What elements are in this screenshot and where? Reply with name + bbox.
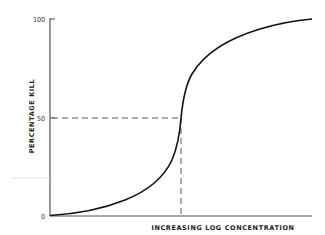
- sigmoid-curve: [50, 19, 312, 216]
- y-tick-label-50: 50: [37, 115, 45, 123]
- y-tick-label-0: 0: [41, 213, 45, 221]
- x-axis-title: INCREASING LOG CONCENTRATION: [151, 224, 294, 232]
- dose-response-chart: 100 50 0 INCREASING LOG CONCENTRATION PE…: [0, 0, 325, 235]
- y-tick-label-100: 100: [33, 16, 45, 24]
- y-axis-title: PERCENTAGE KILL: [28, 79, 36, 154]
